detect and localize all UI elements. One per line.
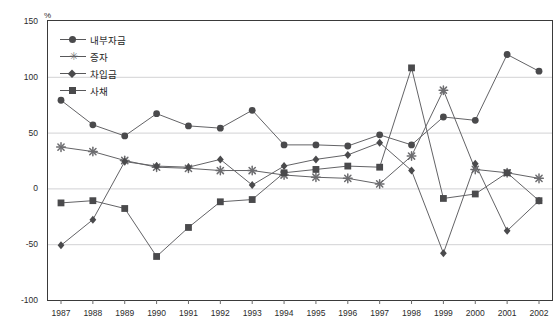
y-axis-tick-label: 150 — [12, 17, 38, 25]
data-point-square — [408, 64, 415, 71]
data-point-diamond — [313, 155, 320, 163]
data-point-diamond — [281, 162, 288, 170]
data-point-circle — [344, 143, 351, 150]
legend-label: 차입금 — [86, 67, 117, 81]
data-point-circle — [121, 133, 128, 140]
chart-legend: 내부자금✳증자차입금사채 — [60, 31, 126, 99]
y-axis-tick-label: 50 — [12, 129, 38, 137]
x-axis-tick-label: 1991 — [171, 309, 205, 318]
x-axis-tick-label: 2000 — [458, 309, 492, 318]
data-point-square — [536, 197, 543, 204]
data-point-square — [217, 198, 224, 205]
x-axis-tick-label: 1995 — [299, 309, 333, 318]
data-point-star — [248, 166, 257, 175]
legend-label: 내부자금 — [86, 33, 126, 47]
legend-marker-square-icon — [60, 85, 86, 97]
data-point-circle — [440, 114, 447, 121]
x-axis-tick-label: 1990 — [140, 309, 174, 318]
x-axis-tick-label: 1992 — [203, 309, 237, 318]
data-point-star — [57, 143, 66, 152]
data-point-square — [440, 195, 447, 202]
legend-item-1[interactable]: ✳증자 — [60, 48, 126, 65]
series-0 — [58, 51, 543, 149]
data-point-circle — [472, 117, 479, 124]
data-point-circle — [281, 141, 288, 148]
data-point-star — [439, 86, 448, 95]
y-axis-tick-label: -100 — [12, 296, 38, 304]
data-point-diamond — [376, 139, 383, 147]
data-point-star — [312, 173, 321, 182]
data-point-square — [504, 169, 511, 176]
x-axis-tick-label: 1994 — [267, 309, 301, 318]
y-axis-tick-label: 100 — [12, 73, 38, 81]
data-point-circle — [504, 51, 511, 58]
data-point-circle — [408, 141, 415, 148]
data-point-diamond — [344, 151, 351, 159]
data-point-square — [376, 164, 383, 171]
data-point-square — [249, 196, 256, 203]
y-axis-tick-label: -50 — [12, 240, 38, 248]
legend-marker-circle-icon — [60, 34, 86, 46]
data-point-square — [58, 200, 65, 207]
data-series-group — [57, 51, 544, 260]
x-axis-tick-label: 1999 — [426, 309, 460, 318]
x-axis-tick-label: 1996 — [331, 309, 365, 318]
legend-marker-star-icon: ✳ — [60, 51, 86, 63]
data-point-square — [344, 163, 351, 170]
data-point-circle — [185, 123, 192, 130]
data-point-diamond — [89, 216, 96, 224]
legend-item-0[interactable]: 내부자금 — [60, 31, 126, 48]
x-axis-tick-label: 1997 — [363, 309, 397, 318]
line-chart: % 150100500-50-100 198719881989199019911… — [0, 0, 559, 331]
legend-item-2[interactable]: 차입금 — [60, 65, 126, 82]
legend-marker-diamond-icon — [60, 68, 86, 80]
data-point-square — [185, 224, 192, 231]
data-point-star — [89, 147, 98, 156]
data-point-star — [535, 174, 544, 183]
data-point-star — [216, 166, 225, 175]
data-point-circle — [89, 121, 96, 128]
data-point-square — [121, 205, 128, 212]
x-axis-tick-label: 1989 — [108, 309, 142, 318]
data-point-circle — [376, 131, 383, 138]
data-point-circle — [217, 125, 224, 132]
data-point-square — [89, 197, 96, 204]
x-axis-tick-label: 2002 — [522, 309, 556, 318]
data-point-diamond — [217, 155, 224, 163]
x-axis-tick-label: 1987 — [44, 309, 78, 318]
y-axis-tick-label: 0 — [12, 184, 38, 192]
data-point-star — [344, 174, 353, 183]
x-axis-tick-label: 1998 — [395, 309, 429, 318]
data-point-diamond — [58, 241, 65, 249]
data-point-diamond — [440, 249, 447, 257]
data-point-star — [375, 180, 384, 189]
data-point-circle — [249, 107, 256, 114]
data-point-diamond — [408, 167, 415, 175]
data-point-square — [153, 253, 160, 260]
data-point-circle — [153, 110, 160, 117]
data-point-square — [472, 191, 479, 198]
data-point-star — [407, 152, 416, 161]
x-axis-tick-label: 1988 — [76, 309, 110, 318]
data-point-circle — [536, 68, 543, 75]
series-1 — [57, 86, 544, 188]
legend-item-3[interactable]: 사채 — [60, 82, 126, 99]
x-axis-tick-label: 1993 — [235, 309, 269, 318]
data-point-square — [313, 166, 320, 173]
x-axis-tick-label: 2001 — [490, 309, 524, 318]
data-point-diamond — [249, 181, 256, 189]
data-point-circle — [313, 141, 320, 148]
legend-label: 증자 — [86, 50, 108, 64]
data-point-square — [281, 169, 288, 176]
legend-label: 사채 — [86, 84, 108, 98]
